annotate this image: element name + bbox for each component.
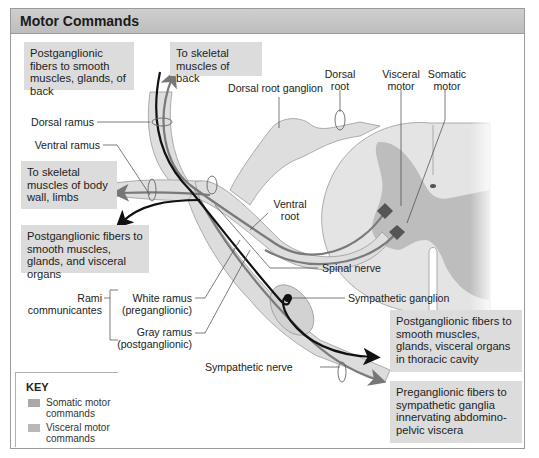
- key-label-visceral: Visceral motorcommands: [46, 422, 110, 444]
- spinal-cord: [322, 120, 495, 315]
- label-sympathetic-ganglion: Sympathetic ganglion: [348, 292, 449, 304]
- label-white-ramus: White ramus(preganglionic): [110, 292, 192, 317]
- label-spinal-nerve: Spinal nerve: [322, 262, 381, 274]
- box-postganglionic-thoracic: Postganglionic fibers to smooth muscles,…: [390, 310, 522, 372]
- box-postganglionic-back: Postganglionic fibers to smooth muscles,…: [24, 42, 134, 90]
- legend-key: KEY Somatic motorcommands Visceral motor…: [15, 372, 118, 447]
- label-dorsal-ramus: Dorsal ramus: [30, 116, 94, 128]
- box-preganglionic-abdominopelvic: Preganglionic fibers to sympathetic gang…: [390, 381, 522, 443]
- swatch-visceral: [28, 424, 40, 432]
- label-dorsal-root: Dorsalroot: [322, 68, 358, 93]
- label-ventral-root: Ventralroot: [269, 198, 311, 223]
- label-rami-communicantes: Ramicommunicantes: [20, 292, 102, 317]
- label-ventral-ramus: Ventral ramus: [30, 139, 100, 151]
- swatch-somatic: [28, 399, 40, 407]
- label-dorsal-root-ganglion: Dorsal root ganglion: [228, 82, 323, 94]
- key-label-somatic: Somatic motorcommands: [46, 397, 110, 419]
- label-visceral-motor: Visceralmotor: [378, 68, 424, 93]
- label-somatic-motor: Somaticmotor: [424, 68, 470, 93]
- label-sympathetic-nerve: Sympathetic nerve: [205, 361, 293, 373]
- label-gray-ramus: Gray ramus(postganglionic): [110, 326, 192, 351]
- box-skeletal-body-wall: To skeletal muscles of body wall, limbs: [21, 161, 117, 209]
- central-canal: [430, 184, 436, 188]
- key-title: KEY: [26, 381, 49, 393]
- box-skeletal-back: To skeletal muscles of back: [170, 42, 262, 76]
- synapse-dot: [284, 294, 292, 302]
- box-postganglionic-visceral: Postganglionic fibers to smooth muscles,…: [21, 225, 149, 273]
